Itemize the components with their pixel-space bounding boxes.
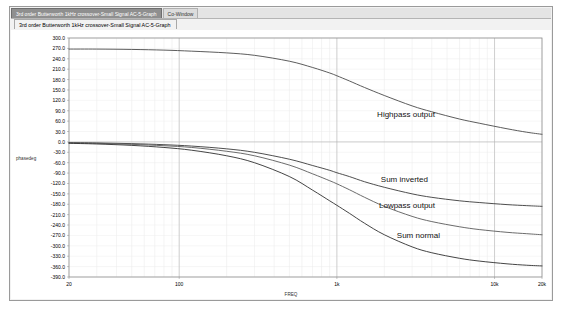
series-curve — [69, 143, 542, 266]
y-tick-label: -60.0 — [54, 160, 66, 166]
y-tick-label: -300.0 — [51, 243, 65, 249]
window-tab-strip: 3rd order Butterworth 1kHz crossover-Sma… — [11, 8, 551, 19]
y-tick-label: -390.0 — [51, 274, 65, 280]
y-tick-label: 120.0 — [52, 97, 65, 103]
y-tick-label: 90.0 — [55, 108, 65, 114]
x-tick-label: 1k — [334, 281, 340, 287]
y-tick-label: 0.0 — [58, 139, 65, 145]
y-tick-label: -210.0 — [51, 212, 65, 218]
window-tab-secondary[interactable]: Co-Window — [163, 8, 199, 18]
y-tick-label: -270.0 — [51, 232, 65, 238]
y-tick-label: -30.0 — [54, 149, 66, 155]
y-tick-label: -240.0 — [51, 222, 65, 228]
x-axis-tick-labels: 201001k10k20k — [66, 277, 546, 287]
y-tick-label: -120.0 — [51, 180, 65, 186]
y-axis-tick-labels: 300.0270.0240.0210.0180.0150.0120.090.06… — [51, 35, 69, 280]
y-tick-label: -150.0 — [51, 191, 65, 197]
plot-frame-border — [69, 38, 542, 277]
x-tick-label: 20k — [538, 281, 547, 287]
series-curve — [69, 143, 542, 235]
x-tick-label: 20 — [66, 281, 72, 287]
document-tab-row: 3rd order Butterworth 1kHz crossover-Sma… — [11, 19, 551, 30]
y-tick-label: 240.0 — [52, 56, 65, 62]
y-axis-title: phasedeg — [16, 156, 37, 161]
grid-major — [69, 38, 542, 277]
y-tick-label: -90.0 — [54, 170, 66, 176]
y-tick-label: -180.0 — [51, 201, 65, 207]
series-label: Lowpass output — [379, 201, 436, 210]
y-tick-label: 150.0 — [52, 87, 65, 93]
y-tick-label: 300.0 — [52, 35, 65, 41]
document-tab-graph[interactable]: 3rd order Butterworth 1kHz crossover-Sma… — [14, 19, 177, 29]
graph-window: 3rd order Butterworth 1kHz crossover-Sma… — [9, 6, 553, 301]
series-curve — [69, 49, 542, 134]
series-label: Sum normal — [397, 231, 440, 240]
y-tick-label: -330.0 — [51, 253, 65, 259]
chart-canvas: 300.0270.0240.0210.0180.0150.0120.090.06… — [11, 30, 551, 299]
phase-response-plot: 300.0270.0240.0210.0180.0150.0120.090.06… — [11, 30, 551, 299]
grid-minor — [69, 38, 542, 277]
series-curves — [69, 49, 542, 266]
y-tick-label: 210.0 — [52, 66, 65, 72]
y-tick-label: 60.0 — [55, 118, 65, 124]
x-tick-label: 100 — [175, 281, 184, 287]
series-annotations: Highpass outputSum invertedLowpass outpu… — [377, 110, 440, 240]
y-tick-label: 270.0 — [52, 45, 65, 51]
y-tick-label: -360.0 — [51, 264, 65, 270]
y-tick-label: 30.0 — [55, 129, 65, 135]
series-label: Sum inverted — [381, 175, 428, 184]
y-tick-label: 180.0 — [52, 77, 65, 83]
series-label: Highpass output — [377, 110, 436, 119]
x-axis-title: FREQ — [285, 292, 298, 297]
window-tab-graph[interactable]: 3rd order Butterworth 1kHz crossover-Sma… — [11, 8, 162, 18]
x-tick-label: 10k — [491, 281, 500, 287]
screenshot-root: 3rd order Butterworth 1kHz crossover-Sma… — [0, 0, 562, 312]
